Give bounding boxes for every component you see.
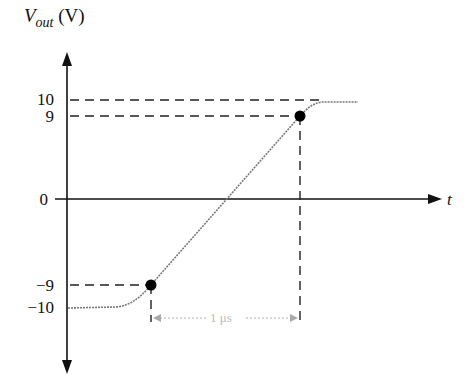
y-axis-label-unit: (V) xyxy=(58,5,84,26)
y-tick-minus-9: −9 xyxy=(14,277,54,294)
lower-point-marker xyxy=(146,280,157,291)
y-tick-9: 9 xyxy=(14,108,54,125)
y-tick-0: 0 xyxy=(8,191,48,208)
interval-arrow-left-icon xyxy=(153,314,161,322)
y-axis-label: Vout (V) xyxy=(24,6,85,25)
y-axis-label-subscript: out xyxy=(36,15,54,30)
y-axis-arrow-up-icon xyxy=(62,52,72,66)
upper-point-marker xyxy=(295,111,306,122)
vout-waveform xyxy=(68,102,358,308)
interval-arrow-right-icon xyxy=(290,314,298,322)
interval-label: 1 μs xyxy=(210,311,232,324)
y-tick-10: 10 xyxy=(14,91,54,108)
t-axis-label: t xyxy=(447,191,452,208)
waveform-diagram xyxy=(0,0,475,376)
y-axis-arrow-down-icon xyxy=(62,360,72,374)
y-axis-label-main: V xyxy=(24,5,36,26)
y-tick-minus-10: −10 xyxy=(14,299,54,316)
t-axis-arrow-icon xyxy=(428,194,442,204)
